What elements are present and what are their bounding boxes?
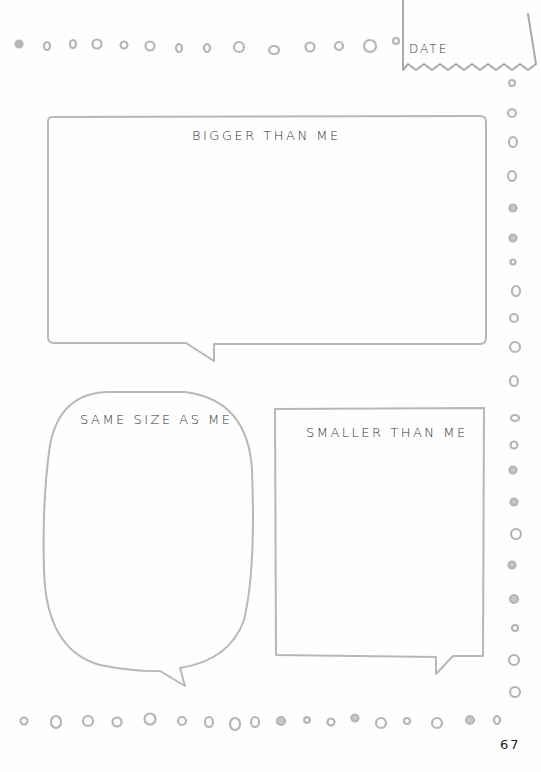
date-field[interactable] bbox=[460, 30, 530, 60]
page-artwork bbox=[0, 0, 541, 772]
smaller-than-me-writing-area[interactable] bbox=[282, 450, 477, 648]
right-dot-border bbox=[508, 80, 521, 697]
activity-page: DATE BIGGER THAN ME SAME SIZE AS ME SMAL… bbox=[0, 0, 541, 772]
bigger-than-me-label: BIGGER THAN ME bbox=[192, 128, 341, 143]
same-size-as-me-label: SAME SIZE AS ME bbox=[80, 412, 233, 427]
bigger-than-me-writing-area[interactable] bbox=[56, 150, 476, 335]
date-label: DATE bbox=[409, 42, 448, 56]
smaller-than-me-label: SMALLER THAN ME bbox=[306, 425, 468, 440]
page-number: 67 bbox=[500, 737, 521, 752]
top-dot-border bbox=[16, 38, 400, 54]
bottom-dot-border bbox=[21, 714, 501, 731]
same-size-as-me-writing-area[interactable] bbox=[55, 435, 245, 655]
